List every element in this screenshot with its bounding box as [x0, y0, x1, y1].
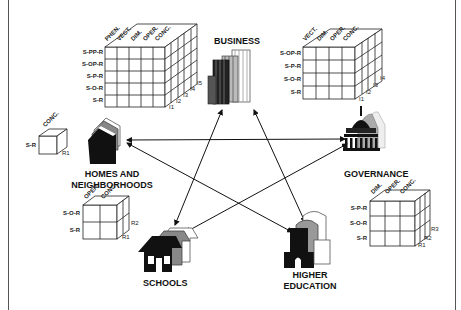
homes-cube-row-label: S-R [26, 142, 36, 148]
highered-label: HIGHER EDUCATION [282, 270, 338, 292]
row-label: S-P-R [87, 73, 103, 79]
depth-label: I1 [359, 96, 364, 102]
schools-icon [138, 228, 198, 272]
business-label: BUSINESS [214, 36, 260, 47]
governance-icon [343, 106, 385, 151]
row-label: S-OP-R [280, 50, 301, 56]
row-label: S-R [291, 89, 301, 95]
depth-label: R1 [418, 242, 426, 248]
depth-label: I3 [183, 92, 188, 98]
row-label: S-O-R [284, 76, 301, 82]
row-label: S-O-R [86, 85, 103, 91]
depth-label: I4 [190, 86, 195, 92]
depth-label: I5 [197, 80, 202, 86]
depth-label: I4 [380, 75, 385, 81]
depth-label: I3 [373, 82, 378, 88]
schools-label: SCHOOLS [143, 278, 188, 289]
highered-icon [284, 212, 330, 269]
arrow-business-highered [254, 110, 305, 222]
homes-icon [88, 118, 120, 164]
highered-cube [370, 190, 430, 246]
depth-label: R2 [424, 235, 432, 241]
row-label: S-O-R [63, 210, 80, 216]
arrow-business-schools [175, 110, 222, 225]
arrow-homes-governance [127, 139, 345, 140]
depth-label: R1 [122, 234, 130, 240]
row-label: S-R [70, 227, 80, 233]
row-label: S-O-R [350, 220, 367, 226]
depth-label: I2 [366, 89, 371, 95]
depth-label: I1 [169, 104, 174, 110]
homes-cube-depth-label: R1 [62, 150, 70, 156]
row-label: S-P-R [351, 205, 367, 211]
homes-label-line1: HOMES AND [70, 169, 154, 180]
depth-label: I2 [176, 98, 181, 104]
row-label: S-R [357, 235, 367, 241]
row-label: S-R [93, 97, 103, 103]
business-icon [208, 50, 250, 104]
depth-label: R3 [431, 226, 439, 232]
row-label: S-P-R [285, 63, 301, 69]
depth-label: R2 [131, 220, 139, 226]
highered-label-line2: EDUCATION [282, 281, 338, 292]
row-label: S-PP-R [83, 49, 103, 55]
schools-cube [83, 196, 129, 239]
highered-label-line1: HIGHER [282, 270, 338, 281]
row-label: S-OP-R [82, 61, 103, 67]
